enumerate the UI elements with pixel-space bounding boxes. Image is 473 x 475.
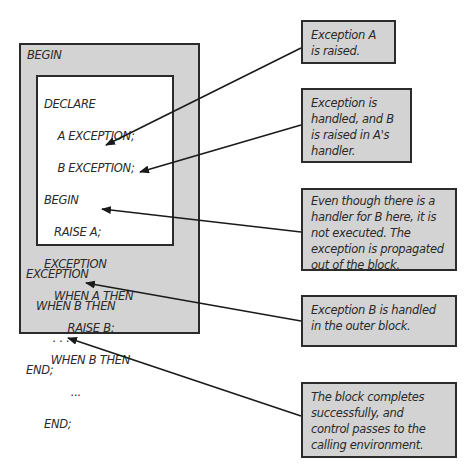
code-line: END; — [44, 416, 135, 432]
outer-exception-section: EXCEPTION WHEN B THEN . . . END; — [26, 250, 115, 394]
callout-text: control passes to the — [311, 421, 447, 437]
callout-text: is raised in A's — [311, 127, 402, 143]
callout-text: Exception A — [311, 27, 386, 43]
callout-block-completes: The block completes successfully, and co… — [301, 382, 457, 458]
callout-text: Even though there is a — [311, 193, 447, 209]
callout-text: is raised. — [311, 43, 386, 59]
callout-text: not executed. The — [311, 225, 447, 241]
callout-exception-a-raised: Exception A is raised. — [301, 20, 396, 64]
outer-begin-keyword: BEGIN — [27, 47, 62, 63]
callout-propagated: Even though there is a handler for B her… — [301, 188, 457, 271]
code-line: . . . — [26, 330, 115, 346]
callout-text: handler for B here, it is — [311, 209, 447, 225]
code-line: EXCEPTION — [26, 266, 115, 282]
callout-text: in the outer block. — [311, 318, 447, 334]
code-line: B EXCEPTION; — [44, 160, 135, 176]
callout-text: Exception B is handled — [311, 302, 447, 318]
callout-text: successfully, and — [311, 405, 447, 421]
code-line: DECLARE — [44, 96, 135, 112]
code-line: END; — [26, 362, 115, 378]
code-line: RAISE A; — [44, 224, 135, 240]
callout-handled-outer: Exception B is handled in the outer bloc… — [301, 295, 457, 347]
callout-text: The block completes — [311, 389, 447, 405]
callout-text: Exception is — [311, 95, 402, 111]
code-line: A EXCEPTION; — [44, 128, 135, 144]
callout-text: out of the block. — [311, 257, 447, 273]
callout-text: exception is propagated — [311, 241, 447, 257]
callout-text: handler. — [311, 143, 402, 159]
code-line: BEGIN — [44, 192, 135, 208]
code-line: WHEN B THEN — [26, 298, 115, 314]
callout-text: calling environment. — [311, 437, 447, 453]
callout-text: handled, and B — [311, 111, 402, 127]
callout-exception-handled: Exception is handled, and B is raised in… — [301, 88, 412, 163]
